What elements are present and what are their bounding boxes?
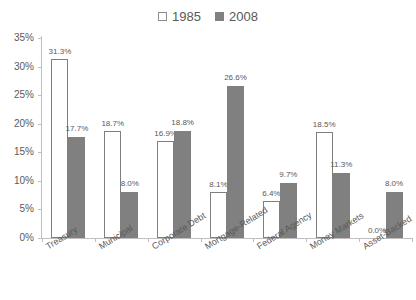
x-axis-tick-mark [359, 238, 360, 242]
bar-value-label: 26.6% [224, 74, 247, 82]
bar-group: 31.3%17.7% [42, 38, 95, 238]
bar[interactable]: 16.9% [157, 141, 174, 238]
bar[interactable]: 26.6% [227, 86, 244, 238]
bar[interactable]: 17.7% [68, 137, 85, 238]
bar-pair: 0.0%8.0% [359, 38, 412, 238]
bar-group: 16.9%18.8% [148, 38, 201, 238]
y-axis-tick-label: 30% [14, 61, 34, 72]
y-axis-tick-label: 0% [20, 232, 34, 243]
x-axis-tick-mark [412, 238, 413, 242]
filled-square-icon [215, 12, 224, 21]
bar-value-label: 9.7% [279, 171, 297, 179]
bar-value-label: 18.7% [101, 120, 124, 128]
legend-label-1985: 1985 [172, 10, 201, 23]
bar-pair: 16.9%18.8% [148, 38, 201, 238]
bar-value-label: 11.3% [330, 161, 352, 169]
plot-area: 31.3%17.7%18.7%8.0%16.9%18.8%8.1%26.6%6.… [42, 38, 412, 238]
unfilled-square-icon [158, 12, 167, 21]
bar[interactable]: 18.7% [104, 131, 121, 238]
y-axis-tick-label: 10% [14, 175, 34, 186]
bar-value-label: 31.3% [49, 48, 72, 56]
legend-entry-2008: 2008 [215, 10, 258, 23]
bar-value-label: 18.5% [313, 121, 336, 129]
y-axis-tick-label: 20% [14, 118, 34, 129]
bar-pair: 8.1%26.6% [201, 38, 254, 238]
legend-label-2008: 2008 [229, 10, 258, 23]
y-axis-tick-label: 35% [14, 32, 34, 43]
legend-entry-1985: 1985 [158, 10, 201, 23]
bar-value-label: 18.8% [171, 119, 194, 127]
x-axis-tick-mark [148, 238, 149, 242]
bar-chart: 1985 2008 0%5%10%15%20%25%30%35% 31.3%17… [0, 0, 416, 300]
bar[interactable]: 18.5% [316, 132, 333, 238]
bar-pair: 31.3%17.7% [42, 38, 95, 238]
y-axis-tick-label: 15% [14, 146, 34, 157]
bar-pair: 18.7%8.0% [95, 38, 148, 238]
y-axis-tick-label: 25% [14, 89, 34, 100]
bar-value-label: 6.4% [262, 190, 280, 198]
chart-legend: 1985 2008 [0, 10, 416, 23]
bar-group: 0.0%8.0% [359, 38, 412, 238]
bar-group: 18.5%11.3% [306, 38, 359, 238]
x-axis-tick-mark [95, 238, 96, 242]
bar-group: 8.1%26.6% [201, 38, 254, 238]
x-axis-tick-mark [42, 238, 43, 242]
bar-value-label: 8.0% [121, 180, 139, 188]
y-axis-tick-label: 5% [20, 203, 34, 214]
bar-value-label: 17.7% [66, 125, 89, 133]
bar[interactable]: 31.3% [51, 59, 68, 238]
x-axis-tick-mark [201, 238, 202, 242]
bar-value-label: 8.0% [385, 180, 403, 188]
x-axis-tick-mark [306, 238, 307, 242]
x-axis-tick-mark [253, 238, 254, 242]
bar-value-label: 8.1% [209, 181, 227, 189]
bar-pair: 18.5%11.3% [306, 38, 359, 238]
bar-group: 18.7%8.0% [95, 38, 148, 238]
